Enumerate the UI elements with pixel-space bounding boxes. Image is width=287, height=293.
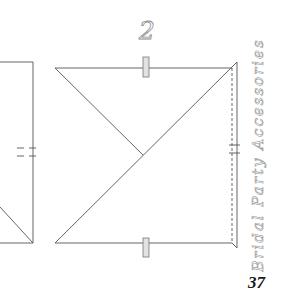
- bottom-tab: [143, 238, 149, 257]
- side-title: Bridal Party Accessories: [249, 38, 267, 271]
- right-pattern-piece: [55, 62, 240, 248]
- top-tab: [143, 57, 149, 77]
- left-pattern-piece: [0, 62, 36, 243]
- page-number: 37: [248, 274, 265, 292]
- step-number: 2: [136, 16, 158, 46]
